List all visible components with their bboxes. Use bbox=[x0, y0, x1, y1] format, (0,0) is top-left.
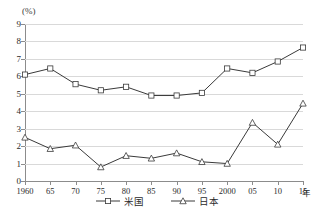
x-axis-tick-mark bbox=[151, 181, 152, 185]
x-axis-tick-mark bbox=[278, 181, 279, 185]
chart-legend: 米国日本 bbox=[0, 194, 313, 208]
gridline bbox=[25, 41, 303, 42]
legend-item[interactable]: 日本 bbox=[170, 194, 219, 208]
y-axis-unit-label: (%) bbox=[22, 6, 36, 16]
gridline bbox=[25, 94, 303, 95]
gridline bbox=[25, 164, 303, 165]
y-axis-tick-mark bbox=[21, 94, 25, 95]
y-axis-tick-mark bbox=[21, 164, 25, 165]
x-axis-tick-mark bbox=[50, 181, 51, 185]
x-axis-tick-mark bbox=[25, 181, 26, 185]
gridline bbox=[25, 76, 303, 77]
gridline bbox=[25, 146, 303, 147]
x-axis-tick-mark bbox=[303, 181, 304, 185]
line-chart: (%) 9876543210 1960657075808590952000051… bbox=[0, 0, 313, 215]
x-axis-tick-mark bbox=[227, 181, 228, 185]
y-axis-tick-mark bbox=[21, 59, 25, 60]
gridline bbox=[25, 24, 303, 25]
legend-square-marker-icon bbox=[95, 195, 121, 207]
y-axis-tick-mark bbox=[21, 24, 25, 25]
x-axis-line bbox=[25, 181, 303, 182]
x-axis-tick-mark bbox=[76, 181, 77, 185]
plot-area bbox=[25, 24, 303, 181]
x-axis-tick-mark bbox=[252, 181, 253, 185]
gridline bbox=[25, 111, 303, 112]
y-axis-tick-mark bbox=[21, 146, 25, 147]
y-axis-tick-mark bbox=[21, 41, 25, 42]
x-axis-tick-mark bbox=[177, 181, 178, 185]
legend-label: 日本 bbox=[199, 194, 219, 208]
gridline bbox=[25, 59, 303, 60]
gridline bbox=[25, 129, 303, 130]
legend-item[interactable]: 米国 bbox=[95, 194, 144, 208]
x-axis-tick-mark bbox=[101, 181, 102, 185]
legend-label: 米国 bbox=[124, 194, 144, 208]
y-axis-tick-mark bbox=[21, 129, 25, 130]
y-axis-tick-mark bbox=[21, 76, 25, 77]
y-axis-tick-mark bbox=[21, 111, 25, 112]
legend-triangle-marker-icon bbox=[170, 195, 196, 207]
x-axis-tick-mark bbox=[126, 181, 127, 185]
x-axis-tick-mark bbox=[202, 181, 203, 185]
